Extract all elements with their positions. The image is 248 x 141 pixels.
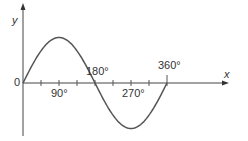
x-axis-arrow-icon [222,81,229,86]
x-axis-label: x [224,69,230,80]
sine-chart [0,0,248,141]
y-axis-label: y [12,15,18,26]
origin-label: 0 [14,77,20,88]
tick-label-360: 360° [158,60,181,71]
tick-label-270: 270° [122,88,145,99]
tick-label-90: 90° [51,88,68,99]
tick-label-180: 180° [86,66,109,77]
y-axis-arrow-icon [21,3,26,10]
